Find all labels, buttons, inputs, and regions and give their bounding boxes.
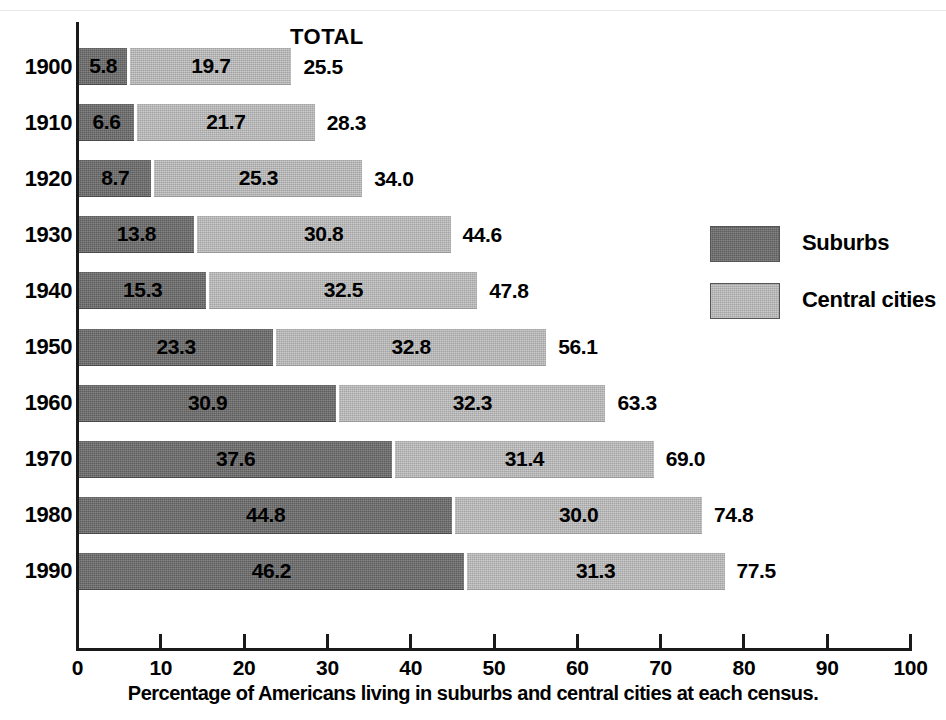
bar-segment-suburbs: 30.9 bbox=[79, 385, 336, 422]
x-tick-label: 40 bbox=[399, 656, 422, 680]
bar-value-suburbs: 46.2 bbox=[252, 559, 291, 583]
bar-value-central-cities: 30.0 bbox=[559, 503, 598, 527]
bar-value-central-cities: 31.4 bbox=[505, 447, 544, 471]
bar-total-value: 44.6 bbox=[463, 223, 502, 247]
year-label: 1970 bbox=[25, 446, 72, 472]
bar-segment-central-cities: 32.8 bbox=[276, 329, 546, 366]
bar-value-suburbs: 5.8 bbox=[89, 54, 117, 78]
bar-value-central-cities: 32.5 bbox=[324, 278, 363, 302]
x-tick-label: 100 bbox=[893, 656, 927, 680]
legend-label-central-cities: Central cities bbox=[802, 287, 936, 313]
bar-total-value: 25.5 bbox=[303, 55, 342, 79]
bar-segment-suburbs: 13.8 bbox=[79, 216, 194, 253]
x-axis-line bbox=[76, 648, 912, 651]
x-tick-label: 30 bbox=[316, 656, 339, 680]
bar-total-value: 63.3 bbox=[617, 391, 656, 415]
bar-row: 19005.819.725.5 bbox=[0, 48, 946, 85]
x-tick-label: 50 bbox=[483, 656, 506, 680]
bar-total-value: 47.8 bbox=[489, 279, 528, 303]
bar-row: 198044.830.074.8 bbox=[0, 497, 946, 534]
stacked-bar-chart: TOTAL 19005.819.725.519106.621.728.31920… bbox=[0, 0, 946, 720]
year-label: 1900 bbox=[25, 54, 72, 80]
x-tick-label: 70 bbox=[649, 656, 672, 680]
chart-caption: Percentage of Americans living in suburb… bbox=[0, 682, 946, 705]
x-tick bbox=[243, 634, 246, 648]
bar-row: 196030.932.363.3 bbox=[0, 385, 946, 422]
x-tick bbox=[409, 634, 412, 648]
year-label: 1950 bbox=[25, 334, 72, 360]
bar-segment-central-cities: 30.0 bbox=[455, 497, 702, 534]
bar-row: 197037.631.469.0 bbox=[0, 441, 946, 478]
year-label: 1960 bbox=[25, 390, 72, 416]
x-tick-label: 0 bbox=[72, 656, 83, 680]
bar-row: 199046.231.377.5 bbox=[0, 553, 946, 590]
bar-row: 19106.621.728.3 bbox=[0, 104, 946, 141]
legend-label-suburbs: Suburbs bbox=[802, 230, 889, 256]
x-tick-label: 20 bbox=[233, 656, 256, 680]
bar-value-suburbs: 23.3 bbox=[156, 335, 195, 359]
bar-total-value: 28.3 bbox=[327, 111, 366, 135]
bar-segment-suburbs: 8.7 bbox=[79, 160, 151, 197]
bar-segment-central-cities: 32.3 bbox=[339, 385, 605, 422]
bar-segment-central-cities: 31.4 bbox=[395, 441, 654, 478]
year-label: 1990 bbox=[25, 558, 72, 584]
bar-total-value: 74.8 bbox=[714, 503, 753, 527]
year-label: 1920 bbox=[25, 166, 72, 192]
x-tick bbox=[909, 634, 912, 648]
bar-segment-suburbs: 6.6 bbox=[79, 104, 134, 141]
bar-value-central-cities: 32.3 bbox=[453, 391, 492, 415]
year-label: 1930 bbox=[25, 222, 72, 248]
bar-value-suburbs: 44.8 bbox=[246, 503, 285, 527]
bar-value-suburbs: 13.8 bbox=[117, 222, 156, 246]
bar-segment-suburbs: 37.6 bbox=[79, 441, 392, 478]
bar-value-suburbs: 30.9 bbox=[188, 391, 227, 415]
year-label: 1980 bbox=[25, 502, 72, 528]
x-tick-label: 10 bbox=[149, 656, 172, 680]
bar-segment-central-cities: 32.5 bbox=[209, 272, 477, 309]
bar-value-central-cities: 25.3 bbox=[239, 166, 278, 190]
bar-segment-central-cities: 30.8 bbox=[197, 216, 451, 253]
x-tick bbox=[576, 634, 579, 648]
x-tick bbox=[742, 634, 745, 648]
bar-segment-suburbs: 44.8 bbox=[79, 497, 452, 534]
bar-value-central-cities: 32.8 bbox=[392, 335, 431, 359]
x-tick-label: 90 bbox=[816, 656, 839, 680]
bar-value-central-cities: 31.3 bbox=[576, 559, 615, 583]
x-tick bbox=[826, 634, 829, 648]
x-tick bbox=[493, 634, 496, 648]
legend-swatch-suburbs bbox=[710, 226, 780, 262]
legend-item-suburbs: Suburbs bbox=[710, 226, 940, 283]
bar-segment-central-cities: 31.3 bbox=[467, 553, 725, 590]
bar-segment-central-cities: 25.3 bbox=[154, 160, 362, 197]
bar-total-value: 56.1 bbox=[558, 335, 597, 359]
legend-item-central-cities: Central cities bbox=[710, 283, 940, 340]
bar-total-value: 77.5 bbox=[737, 559, 776, 583]
x-tick-label: 80 bbox=[733, 656, 756, 680]
bar-value-suburbs: 8.7 bbox=[101, 166, 129, 190]
bar-segment-suburbs: 23.3 bbox=[79, 329, 273, 366]
legend: Suburbs Central cities bbox=[710, 226, 940, 340]
year-label: 1910 bbox=[25, 110, 72, 136]
bar-value-central-cities: 21.7 bbox=[206, 110, 245, 134]
bar-value-central-cities: 19.7 bbox=[191, 54, 230, 78]
x-tick bbox=[326, 634, 329, 648]
bar-segment-central-cities: 21.7 bbox=[137, 104, 315, 141]
x-tick bbox=[159, 634, 162, 648]
bar-segment-central-cities: 19.7 bbox=[130, 48, 291, 85]
total-column-header: TOTAL bbox=[290, 24, 364, 50]
x-tick bbox=[659, 634, 662, 648]
bar-value-central-cities: 30.8 bbox=[304, 222, 343, 246]
x-tick bbox=[76, 634, 79, 648]
bar-segment-suburbs: 5.8 bbox=[79, 48, 127, 85]
bar-segment-suburbs: 15.3 bbox=[79, 272, 206, 309]
x-tick-label: 60 bbox=[566, 656, 589, 680]
bar-value-suburbs: 6.6 bbox=[92, 110, 120, 134]
legend-swatch-central-cities bbox=[710, 283, 780, 319]
year-label: 1940 bbox=[25, 278, 72, 304]
bar-segment-suburbs: 46.2 bbox=[79, 553, 464, 590]
bar-total-value: 34.0 bbox=[374, 167, 413, 191]
bar-value-suburbs: 37.6 bbox=[216, 447, 255, 471]
bar-total-value: 69.0 bbox=[666, 447, 705, 471]
bar-row: 19208.725.334.0 bbox=[0, 160, 946, 197]
bar-value-suburbs: 15.3 bbox=[123, 278, 162, 302]
